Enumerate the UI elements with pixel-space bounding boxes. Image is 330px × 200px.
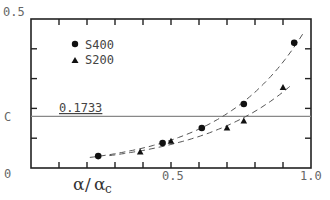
y-tick-label-top: 0.5 (3, 5, 25, 19)
data-point-s400 (95, 153, 102, 160)
legend: S400 S200 (72, 38, 114, 67)
plot-frame (31, 19, 311, 168)
x-tick-label-end: 1.0 (300, 169, 322, 183)
svg-text:c: c (105, 182, 112, 196)
data-point-s400 (291, 40, 298, 47)
data-point-s400 (241, 101, 248, 108)
axis-ticks (31, 19, 311, 168)
data-point-s200 (280, 84, 287, 90)
data-point-s200 (224, 125, 231, 131)
fit-curve-s400 (90, 34, 303, 157)
y-tick-label-c: C (4, 110, 11, 124)
fit-curve-s200 (109, 85, 291, 156)
legend-triangle-icon (72, 57, 79, 63)
data-point-s200 (241, 117, 248, 123)
data-point-s400 (159, 140, 166, 147)
svg-text:α: α (73, 174, 85, 194)
reference-label: 0.1733 (59, 101, 102, 115)
legend-circle-icon (72, 41, 78, 47)
data-points (95, 40, 298, 160)
legend-label-s400: S400 (85, 38, 114, 52)
data-point-s200 (137, 148, 144, 154)
x-tick-label-mid: 0.5 (162, 169, 184, 183)
x-axis-title: α / α c (73, 174, 112, 196)
legend-label-s200: S200 (85, 53, 114, 67)
chart: 0.5 C 0 0.5 1.0 0.1733 S400 S200 α / α c (0, 0, 330, 200)
data-point-s400 (199, 125, 206, 132)
svg-text:/: / (85, 174, 91, 194)
y-tick-label-zero: 0 (4, 167, 11, 181)
